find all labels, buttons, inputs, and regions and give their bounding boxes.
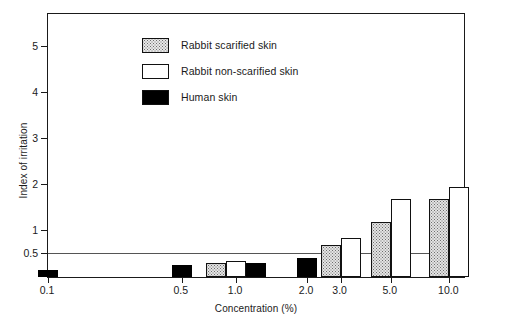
bar-scarified-5.0 [371, 222, 391, 277]
bar-nonscarified-3.0 [341, 238, 361, 277]
legend-label: Rabbit scarified skin [181, 39, 277, 51]
legend-item: Human skin [142, 86, 298, 108]
bar-human-2.0 [297, 258, 317, 277]
y-axis-tick-label: 4 [32, 86, 38, 98]
y-axis-tick-label: 2 [32, 178, 38, 190]
x-axis-tick-label: 5.0 [382, 284, 397, 296]
bar-nonscarified-1.0 [226, 261, 246, 277]
bar-nonscarified-5.0 [391, 199, 411, 277]
y-axis-tick-label: 5 [32, 40, 38, 52]
y-axis-tick-label: 1 [32, 224, 38, 236]
y-axis-tick: 1 [41, 230, 48, 231]
y-axis-tick: 0.5 [41, 253, 48, 254]
bar-nonscarified-10.0 [449, 187, 469, 277]
bar-scarified-10.0 [429, 199, 449, 277]
irritation-index-bar-chart: Index of irritation 543210.5 Rabbit scar… [0, 0, 510, 325]
x-axis-tick [307, 277, 308, 283]
legend-item: Rabbit non-scarified skin [142, 60, 298, 82]
legend: Rabbit scarified skin Rabbit non-scarifi… [142, 34, 298, 112]
plot-area: 543210.5 Rabbit scarified skin Rabbit no… [47, 13, 465, 278]
bar-human-1.0 [246, 263, 266, 277]
legend-swatch-human-icon [142, 90, 169, 105]
x-axis-tick-label: 2.0 [299, 284, 314, 296]
legend-label: Human skin [181, 91, 237, 103]
y-axis-tick-label: 3 [32, 132, 38, 144]
bar-human-0.1 [38, 270, 58, 277]
bar-human-0.5 [172, 265, 192, 277]
y-axis-tick-label: 0.5 [23, 247, 38, 259]
x-axis-tick-label: 0.1 [40, 284, 55, 296]
x-axis-tick [48, 277, 49, 283]
x-axis-label: Concentration (%) [47, 303, 465, 314]
x-axis-tick-label: 10.0 [438, 284, 458, 296]
y-axis-tick: 5 [41, 46, 48, 47]
x-axis-tick [341, 277, 342, 283]
bar-scarified-3.0 [321, 245, 341, 277]
x-axis-tick [391, 277, 392, 283]
x-axis-tick [449, 277, 450, 283]
bar-scarified-1.0 [206, 263, 226, 277]
legend-swatch-scarified-icon [142, 38, 169, 53]
x-axis-tick [236, 277, 237, 283]
y-axis-tick: 2 [41, 184, 48, 185]
x-axis-tick-label: 0.5 [173, 284, 188, 296]
y-axis-tick: 4 [41, 92, 48, 93]
legend-item: Rabbit scarified skin [142, 34, 298, 56]
y-axis-tick: 3 [41, 138, 48, 139]
y-axis-label: Index of irritation [18, 91, 29, 231]
x-axis-tick-label: 3.0 [332, 284, 347, 296]
x-axis-tick-label: 1.0 [228, 284, 243, 296]
x-axis-tick [182, 277, 183, 283]
legend-swatch-nonscarified-icon [142, 64, 169, 79]
legend-label: Rabbit non-scarified skin [181, 65, 298, 77]
